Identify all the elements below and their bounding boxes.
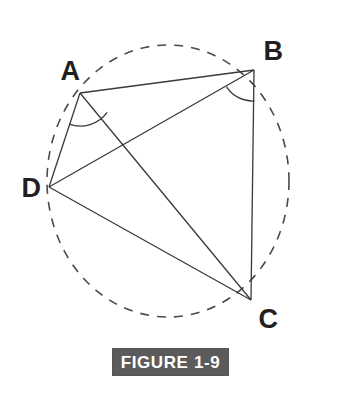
angle-arc-dac: [69, 112, 107, 126]
angle-arc-dbc: [227, 87, 255, 101]
figure-caption-text: FIGURE 1-9: [121, 354, 221, 371]
vertex-label-d: D: [22, 175, 41, 202]
diagonal-ac: [80, 93, 251, 300]
figure-caption-banner: FIGURE 1-9: [112, 348, 229, 376]
vertex-label-c: C: [259, 306, 278, 333]
segment-bc: [251, 70, 254, 300]
segment-dc: [49, 187, 251, 300]
diagonal-bd: [49, 70, 254, 187]
vertex-label-b: B: [264, 38, 283, 65]
figure-1-9-container: A B C D FIGURE 1-9: [0, 0, 337, 406]
segment-ad: [49, 93, 80, 187]
vertex-label-a: A: [61, 58, 80, 85]
geometry-diagram: [0, 0, 337, 406]
